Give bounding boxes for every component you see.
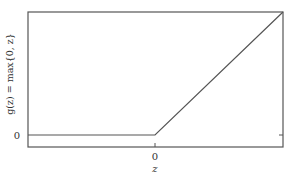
x-axis-label: z <box>151 163 158 174</box>
x-tick-zero-label: 0 <box>152 151 158 162</box>
y-tick-zero-label: 0 <box>14 130 20 141</box>
y-axis-label: g(z) = max{0, z} <box>4 33 15 115</box>
relu-line <box>28 12 283 135</box>
relu-chart: 0 0 z g(z) = max{0, z} <box>0 0 289 175</box>
plot-frame <box>28 12 283 147</box>
